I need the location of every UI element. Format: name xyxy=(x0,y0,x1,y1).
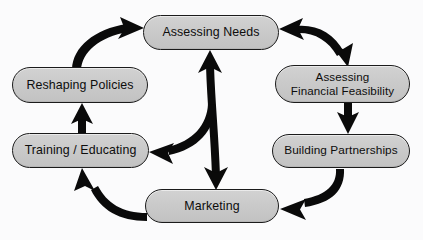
arrow-center-to-training xyxy=(149,104,216,164)
node-training-educating-label: Training / Educating xyxy=(19,143,143,158)
diagram-canvas: Assessing Needs Assessing Financial Feas… xyxy=(0,0,423,240)
node-assessing-financial-feasibility-label: Assessing Financial Feasibility xyxy=(285,70,400,97)
node-training-educating[interactable]: Training / Educating xyxy=(12,133,149,168)
node-marketing-label: Marketing xyxy=(178,199,245,214)
node-assessing-needs-label: Assessing Needs xyxy=(156,25,265,40)
node-marketing[interactable]: Marketing xyxy=(145,189,279,223)
node-building-partnerships[interactable]: Building Partnerships xyxy=(272,134,410,168)
arrow-needs-marketing-vertical xyxy=(198,50,228,190)
arrow-assessing-to-financial xyxy=(279,18,353,67)
node-reshaping-policies[interactable]: Reshaping Policies xyxy=(12,67,148,103)
arrow-marketing-to-training xyxy=(74,168,147,221)
node-building-partnerships-label: Building Partnerships xyxy=(278,144,404,158)
arrow-reshaping-to-assessing xyxy=(72,17,144,70)
arrow-building-to-marketing xyxy=(280,169,344,220)
node-assessing-needs[interactable]: Assessing Needs xyxy=(143,15,279,50)
node-reshaping-policies-label: Reshaping Policies xyxy=(20,78,139,93)
arrow-training-to-reshaping xyxy=(71,103,93,133)
node-assessing-financial-feasibility[interactable]: Assessing Financial Feasibility xyxy=(275,65,410,103)
arrow-financial-to-building xyxy=(337,102,359,134)
